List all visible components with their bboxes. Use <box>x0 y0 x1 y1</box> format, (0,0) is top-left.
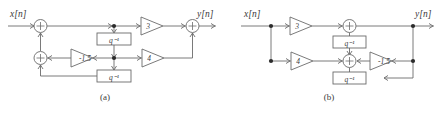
gain-4-triangle-b <box>291 52 313 70</box>
gain-3-label-b: 3 <box>294 22 299 31</box>
panel-a-diagram: 3 -1.5 4 q⁻¹ q⁻¹ x[n] y[n] (a) <box>0 0 441 114</box>
node-mid-a <box>112 56 116 60</box>
gain-neg-1-5-label-b: -1.5 <box>378 57 390 66</box>
input-label-a: x[n] <box>9 9 27 19</box>
caption-a: (a) <box>100 92 110 102</box>
signal-flow-figure: 3 -1.5 4 q⁻¹ q⁻¹ x[n] y[n] (a) <box>0 0 441 114</box>
wire-gain4-to-adder3-a <box>164 33 193 58</box>
delay-top-label-a: q⁻¹ <box>109 36 120 45</box>
gain-4-label-a: 4 <box>147 54 151 63</box>
gain-4-triangle-a <box>142 49 164 67</box>
wire-delaybot-to-adder2-a <box>41 65 98 76</box>
delay-top-label-b: q⁻¹ <box>345 39 356 48</box>
gain-3-label-a: 3 <box>145 22 150 31</box>
output-label-b: y[n] <box>414 9 432 19</box>
caption-b: (b) <box>324 92 335 102</box>
output-label-a: y[n] <box>196 9 214 19</box>
node-output-bottom-b <box>411 59 415 63</box>
gain-neg-1-5-label-a: -1.5 <box>79 54 91 63</box>
input-label-b: x[n] <box>243 9 261 19</box>
gain-3-triangle-a <box>141 17 163 35</box>
gain-4-label-b: 4 <box>296 57 300 66</box>
node-top-a <box>112 24 116 28</box>
node-input-top-b <box>269 24 273 28</box>
gain-3-triangle-b <box>290 17 312 35</box>
node-input-bottom-b <box>269 59 273 63</box>
delay-bottom-label-a: q⁻¹ <box>109 73 120 82</box>
delay-bottom-label-b: q⁻¹ <box>345 75 356 84</box>
node-output-top-b <box>411 24 415 28</box>
